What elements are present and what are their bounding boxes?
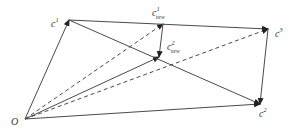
label-origin: O <box>11 116 18 127</box>
label-c3-sup: 3 <box>278 26 283 33</box>
label-c2new-sub: new <box>171 48 180 54</box>
label-c1new-sub: new <box>156 14 165 20</box>
label-c2: c2 <box>259 106 267 119</box>
edge-c1-c3 <box>69 20 268 29</box>
label-c2new: c2new <box>167 39 180 54</box>
edge-c3-c2 <box>260 29 268 104</box>
label-c1new-sup: 1 <box>156 5 159 12</box>
label-c2-sup: 2 <box>263 106 267 113</box>
vector-diagram: O c1 c1new c2new c3 c2 <box>0 0 295 133</box>
label-c3: c3 <box>275 26 283 39</box>
label-c2new-sup: 2 <box>171 39 175 46</box>
edge-o-c1 <box>25 20 69 119</box>
label-c1: c1 <box>51 16 59 29</box>
label-c1-sup: 1 <box>55 16 58 23</box>
edge-c1new-c2new <box>159 24 163 57</box>
diagram-svg: O c1 c1new c2new c3 c2 <box>0 0 295 133</box>
edge-c1-c2 <box>69 20 260 104</box>
label-c1new: c1new <box>152 5 165 20</box>
edge-o-c2new <box>25 57 159 119</box>
